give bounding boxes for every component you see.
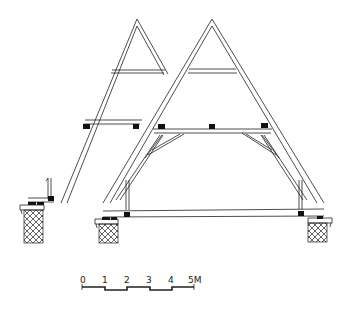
scale-label: 0	[80, 275, 86, 285]
truss-drawing: 0 1 2 3 4 5M	[0, 0, 337, 313]
masonry-pier	[24, 210, 43, 243]
scale-label: 1	[102, 275, 108, 285]
masonry-pier	[308, 223, 327, 242]
purlin-block	[83, 124, 90, 129]
scale-label: 5M	[188, 275, 202, 285]
masonry-pier	[99, 224, 118, 243]
purlin-block	[133, 124, 139, 129]
scale-label: 4	[168, 275, 174, 285]
scale-bar: 0 1 2 3 4 5M	[80, 275, 202, 290]
scale-label: 3	[146, 275, 152, 285]
scale-label: 2	[124, 275, 130, 285]
right-truss	[95, 19, 332, 243]
